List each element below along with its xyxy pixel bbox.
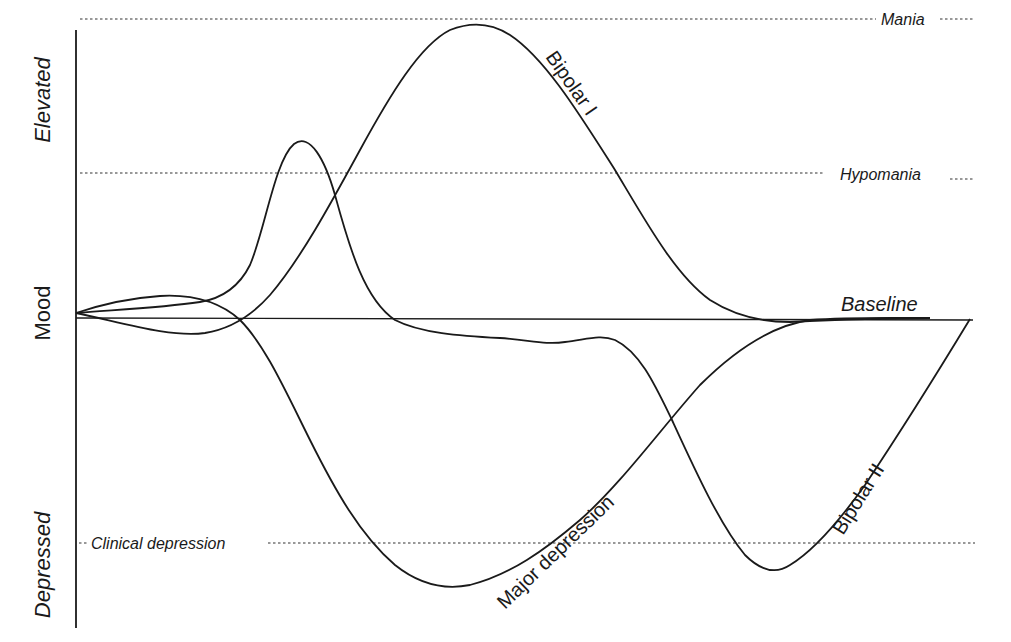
baseline-level: Baseline xyxy=(76,293,973,320)
hypomania-level: Hypomania xyxy=(80,166,975,183)
y-axis-label-depressed: Depressed xyxy=(30,511,55,618)
clinical-depression-level: Clinical depression xyxy=(79,535,975,552)
clinical-depression-label: Clinical depression xyxy=(91,535,225,552)
mania-label: Mania xyxy=(881,11,925,28)
major-depression-label: Major depression xyxy=(492,490,618,612)
baseline-label: Baseline xyxy=(841,293,918,315)
mood-episodes-diagram: Elevated Mood Depressed Mania Hypomania … xyxy=(0,0,1011,642)
y-axis-label-elevated: Elevated xyxy=(30,56,55,142)
bipolar-2-curve xyxy=(76,141,970,570)
bipolar-2-label: Bipolar II xyxy=(828,460,888,539)
bipolar-1-curve xyxy=(76,25,930,334)
hypomania-label: Hypomania xyxy=(840,166,921,183)
y-axis-label-mood: Mood xyxy=(30,285,55,340)
mania-level: Mania xyxy=(80,11,975,28)
bipolar-1-label: Bipolar I xyxy=(542,47,602,120)
